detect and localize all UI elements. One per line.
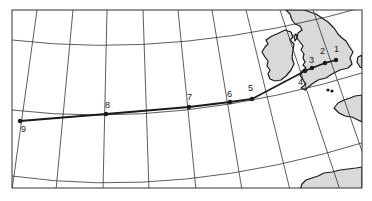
route-point-4 [303,69,307,73]
route-point-label: 9 [21,124,26,134]
france-coast [334,95,362,122]
meridian-line [143,10,149,190]
route-point-7 [187,105,191,109]
meridian-line [12,10,37,190]
route-point-6 [228,100,232,104]
route-point-label: 4 [298,77,303,87]
isle-of-man [294,34,297,41]
map-canvas: 123456789 [0,0,372,201]
route-point-label: 6 [227,89,232,99]
route-point-label: 2 [320,46,325,56]
route-point-label: 7 [187,92,192,102]
route-point-5 [250,97,254,101]
land-layer [262,10,362,190]
route-point-1 [334,58,338,62]
iberia-coast [300,167,362,190]
meridian-line [212,10,242,190]
continent-north [357,55,362,68]
route-point-9 [18,119,22,123]
route-point-label: 1 [334,44,339,54]
route-point-label: 3 [309,55,314,65]
route-point-2 [323,61,327,65]
route-point-3 [310,66,314,70]
meridian-line [56,10,73,190]
route-point-label: 8 [105,100,110,110]
route-point-8 [104,112,108,116]
route-point-label: 5 [248,83,253,93]
route-map: 123456789 [0,0,372,201]
